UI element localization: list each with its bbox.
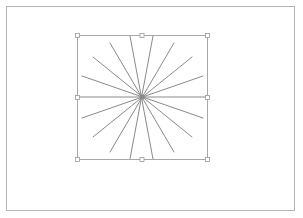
resize-handle-bottom-right[interactable]	[206, 158, 210, 162]
resize-handle-bottom-center[interactable]	[140, 158, 144, 162]
resize-handle-top-left[interactable]	[76, 34, 80, 38]
resize-handle-middle-right[interactable]	[206, 96, 210, 100]
resize-handle-top-right[interactable]	[206, 34, 210, 38]
center-point	[140, 95, 145, 100]
resize-handle-top-center[interactable]	[140, 34, 144, 38]
resize-handle-middle-left[interactable]	[76, 96, 80, 100]
resize-handle-bottom-left[interactable]	[76, 158, 80, 162]
drawing-area[interactable]	[0, 0, 303, 218]
